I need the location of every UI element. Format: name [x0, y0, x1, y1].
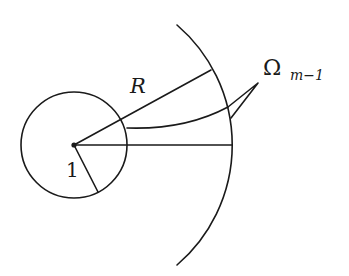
label-omega: Ω	[263, 55, 281, 80]
center-point	[71, 142, 76, 147]
label-omega-subscript: m−1	[290, 67, 324, 83]
diagram-figure: R 1 Ω m−1	[0, 0, 349, 276]
label-R: R	[129, 74, 146, 98]
label-1: 1	[66, 158, 79, 182]
region-boundary-curve	[127, 107, 228, 128]
label-pointer	[228, 83, 258, 118]
